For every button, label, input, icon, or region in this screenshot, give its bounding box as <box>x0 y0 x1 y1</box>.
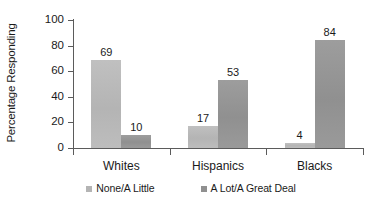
bar-hispanics-series0[interactable] <box>188 126 218 148</box>
bar-blacks-series0[interactable] <box>285 143 315 148</box>
bar-value-label: 10 <box>116 122 156 133</box>
x-axis-separator-tick <box>73 149 74 155</box>
legend-swatch-icon <box>86 186 92 192</box>
y-axis-tick-label: 80 <box>24 40 64 52</box>
bar-chart: Percentage Responding 020406080100 White… <box>0 0 382 204</box>
bar-value-label: 4 <box>280 130 320 141</box>
bar-value-label: 53 <box>213 67 253 78</box>
legend-item-label: None/A Little <box>96 183 154 194</box>
bar-whites-series1[interactable] <box>121 135 151 148</box>
bar-value-label: 84 <box>310 27 350 38</box>
y-axis-tick-label: 20 <box>24 116 64 128</box>
chart-legend: None/A Little A Lot/A Great Deal <box>0 183 382 194</box>
legend-item-none-a-little[interactable]: None/A Little <box>86 183 154 194</box>
x-axis-separator-tick <box>363 149 364 155</box>
x-axis-category-label: Blacks <box>255 160 375 173</box>
bar-whites-series0[interactable] <box>91 60 121 148</box>
legend-item-label: A Lot/A Great Deal <box>211 183 296 194</box>
y-axis-tick-label: 0 <box>24 142 64 154</box>
y-axis-title: Percentage Responding <box>2 8 20 158</box>
legend-swatch-icon <box>201 186 207 192</box>
legend-item-a-lot-a-great-deal[interactable]: A Lot/A Great Deal <box>201 183 296 194</box>
x-axis-separator-tick <box>266 149 267 155</box>
y-axis-tick-label: 60 <box>24 65 64 77</box>
bar-value-label: 69 <box>86 47 126 58</box>
y-axis-tick-label: 40 <box>24 91 64 103</box>
y-axis-tick-label: 100 <box>24 14 64 26</box>
bar-value-label: 17 <box>183 113 223 124</box>
x-axis-separator-tick <box>170 149 171 155</box>
y-axis-title-text: Percentage Responding <box>5 23 17 142</box>
x-axis-line <box>73 148 364 149</box>
